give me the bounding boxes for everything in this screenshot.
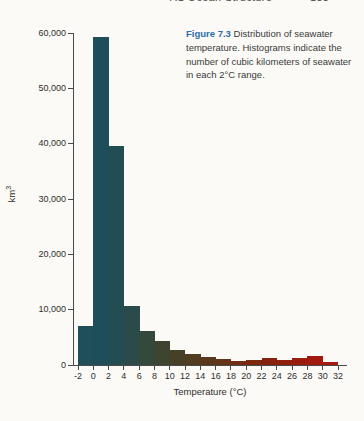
y-axis-line — [73, 33, 74, 366]
y-tick — [68, 199, 73, 200]
x-tick — [78, 366, 79, 370]
x-tick — [215, 366, 216, 370]
x-tick — [139, 366, 140, 370]
x-tick — [185, 366, 186, 370]
histogram-bar — [185, 354, 201, 365]
x-tick — [93, 366, 94, 370]
x-tick — [230, 366, 231, 370]
x-tick-label: 32 — [328, 371, 348, 381]
figure-caption: Figure 7.3 Distribution of seawater temp… — [186, 27, 360, 82]
histogram-bar — [262, 358, 278, 365]
x-tick — [123, 366, 124, 370]
y-tick-label: 20,000 — [24, 249, 66, 259]
y-tick-label: 10,000 — [24, 304, 66, 314]
y-tick-label: 60,000 — [24, 28, 66, 38]
x-tick — [200, 366, 201, 370]
histogram-bar — [124, 306, 140, 365]
x-tick — [292, 366, 293, 370]
y-tick — [68, 309, 73, 310]
x-tick — [154, 366, 155, 370]
x-tick — [261, 366, 262, 370]
y-tick — [68, 88, 73, 89]
histogram-bar — [200, 357, 216, 365]
x-tick — [322, 366, 323, 370]
x-tick — [108, 366, 109, 370]
histogram-bar — [78, 326, 94, 365]
page-header-title: 7.1 Ocean Structure — [168, 0, 272, 3]
page-number: 183 — [310, 0, 329, 3]
histogram-bar — [292, 358, 308, 365]
y-tick-label: 50,000 — [24, 83, 66, 93]
y-tick — [68, 365, 73, 366]
y-tick — [68, 143, 73, 144]
x-axis-line — [73, 365, 347, 366]
y-tick-label: 0 — [24, 360, 66, 370]
x-tick — [276, 366, 277, 370]
textbook-page: 7.1 Ocean Structure 183 Figure 7.3 Distr… — [0, 0, 364, 421]
x-axis-label: Temperature (°C) — [130, 386, 290, 397]
x-tick — [246, 366, 247, 370]
histogram-bar — [154, 341, 170, 365]
histogram-bar — [109, 146, 125, 365]
x-tick — [307, 366, 308, 370]
y-tick-label: 40,000 — [24, 138, 66, 148]
y-tick — [68, 33, 73, 34]
histogram-bar — [307, 356, 323, 365]
y-tick — [68, 254, 73, 255]
histogram-bar — [170, 350, 186, 365]
x-tick — [338, 366, 339, 370]
y-axis-label: km3 — [5, 179, 17, 209]
caption-label: Figure 7.3 — [186, 28, 231, 39]
x-tick — [169, 366, 170, 370]
histogram-bar — [139, 331, 155, 365]
histogram-bar — [93, 37, 109, 365]
y-tick-label: 30,000 — [24, 194, 66, 204]
